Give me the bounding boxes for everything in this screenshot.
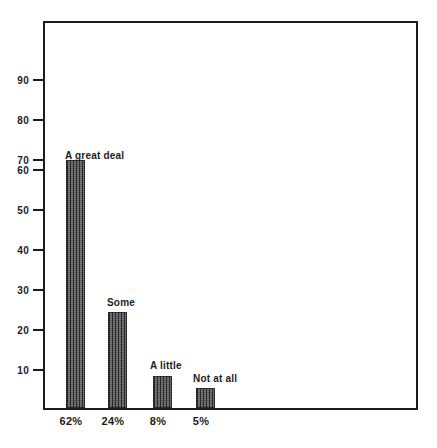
bar-a-great-deal[interactable] <box>66 160 85 408</box>
x-axis-label-a-great-deal: 62% <box>52 416 90 427</box>
y-axis-tick-label-90: 90 <box>17 76 29 86</box>
bar-label-some: Some <box>107 298 135 308</box>
bar-label-a-great-deal: A great deal <box>65 151 124 161</box>
y-axis-tick-label-40: 40 <box>17 246 29 256</box>
y-axis-tick-label-80: 80 <box>17 116 29 126</box>
x-axis-label-not-at-all: 5% <box>182 416 220 427</box>
y-axis-tick-label-20: 20 <box>17 326 29 336</box>
y-axis-tick-label-30: 30 <box>17 286 29 296</box>
x-axis-label-some: 24% <box>94 416 132 427</box>
x-axis-label-a-little: 8% <box>139 416 177 427</box>
bar-label-not-at-all: Not at all <box>193 374 237 384</box>
y-axis-tick-label-50: 50 <box>17 206 29 216</box>
bar-a-little[interactable] <box>153 376 172 408</box>
y-axis-tick-label-10: 10 <box>17 366 29 376</box>
bar-chart: 90 80 70 60 50 40 30 20 10 A great deal … <box>0 0 437 448</box>
plot-area <box>43 21 418 410</box>
bar-not-at-all[interactable] <box>196 388 215 408</box>
bar-label-a-little: A little <box>150 361 182 371</box>
bar-some[interactable] <box>108 312 127 408</box>
y-axis-tick-label-60: 60 <box>17 166 29 176</box>
